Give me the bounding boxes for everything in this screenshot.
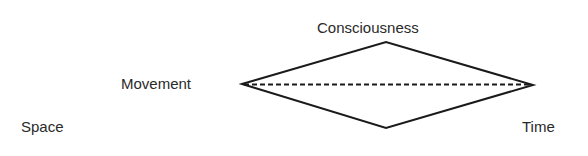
label-space: Space xyxy=(21,118,64,136)
diamond-diagram xyxy=(0,0,588,156)
label-consciousness: Consciousness xyxy=(317,19,419,37)
label-time: Time xyxy=(522,118,555,136)
label-movement: Movement xyxy=(121,75,191,93)
